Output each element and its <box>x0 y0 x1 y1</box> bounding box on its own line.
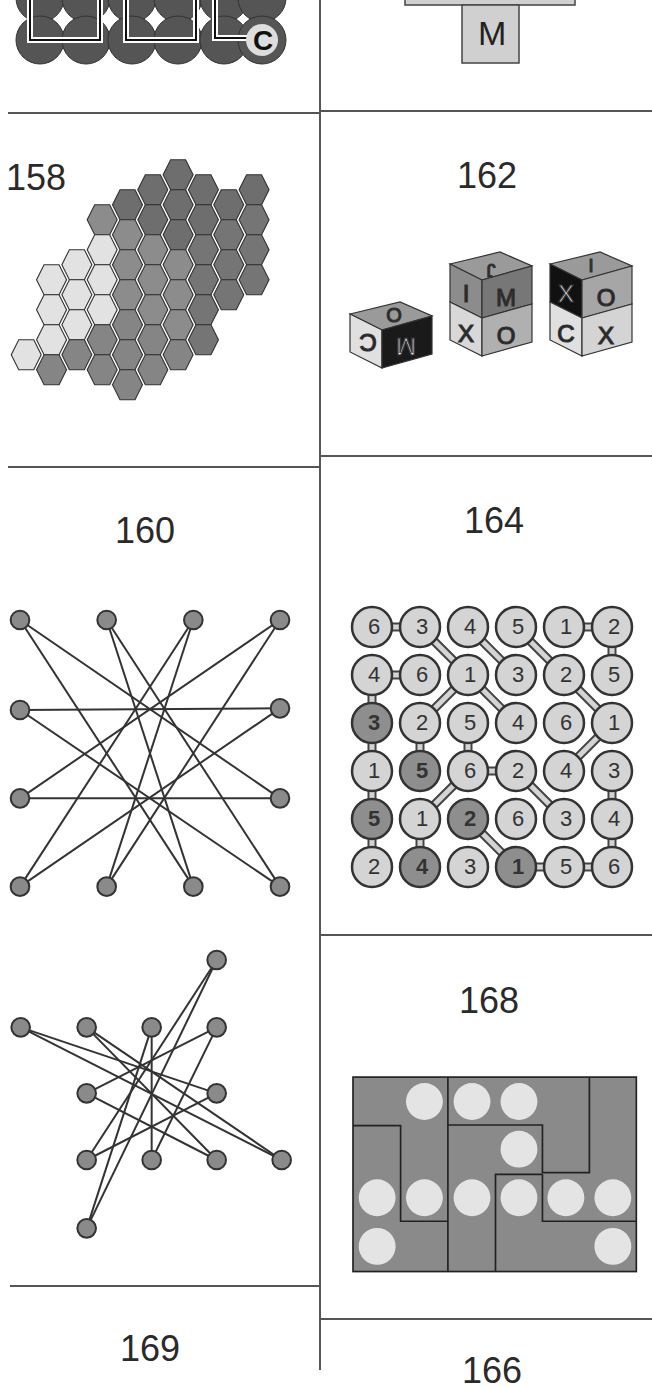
grid-cell: 1 <box>350 749 398 797</box>
grid-cell-shaded: 5 <box>350 797 398 845</box>
grid-cell: 1 <box>446 653 494 701</box>
grid-cell: 2 <box>542 653 590 701</box>
grid-cell: 6 <box>542 701 590 749</box>
grid-cell-shaded: 5 <box>398 749 446 797</box>
grid-cell: 4 <box>590 797 638 845</box>
puzzle-number-partial: 166 <box>462 1350 522 1387</box>
svg-text:O: O <box>386 304 402 326</box>
number-chain-grid: 6 3 4 5 1 2 4 6 1 3 2 5 3 2 5 4 6 1 1 5 … <box>350 605 635 890</box>
svg-text:M: M <box>396 333 416 360</box>
grid-cell: 6 <box>590 845 638 893</box>
puzzle-number-169: 169 <box>120 1328 180 1370</box>
grid-cell: 1 <box>398 797 446 845</box>
crossing-lines-graph-160 <box>0 590 320 910</box>
svg-text:C: C <box>557 320 574 347</box>
grid-cell: 1 <box>542 605 590 653</box>
svg-text:M: M <box>496 284 516 311</box>
grid-cell: 3 <box>398 605 446 653</box>
grid-cell: 2 <box>494 749 542 797</box>
grid-numbers: 6 3 4 5 1 2 4 6 1 3 2 5 3 2 5 4 6 1 1 5 … <box>350 605 635 890</box>
grid-cell: 3 <box>542 797 590 845</box>
grid-cell: 2 <box>350 845 398 893</box>
grid-cell-shaded: 2 <box>446 797 494 845</box>
grid-cell: 4 <box>350 653 398 701</box>
puzzle-number-162: 162 <box>457 155 517 197</box>
divider-graph-169 <box>10 1285 320 1287</box>
grid-cell-shaded: 1 <box>494 845 542 893</box>
letter-cubes-puzzle: O C M J I M X O I X O C X <box>326 250 652 410</box>
grid-cell: 5 <box>446 701 494 749</box>
grid-cell: 2 <box>398 701 446 749</box>
crossing-lines-graph-2 <box>0 930 320 1260</box>
divider-162-164 <box>320 455 652 457</box>
grid-cell: 6 <box>398 653 446 701</box>
svg-text:O: O <box>597 284 616 311</box>
grid-cell: 3 <box>590 749 638 797</box>
letter-c-glyph: C <box>253 25 273 57</box>
divider-top-left <box>8 112 320 114</box>
svg-text:I: I <box>463 280 470 307</box>
svg-text:O: O <box>497 322 516 349</box>
grid-cell: 3 <box>446 845 494 893</box>
grid-cell: 5 <box>494 605 542 653</box>
grid-cell: 3 <box>494 653 542 701</box>
svg-text:X: X <box>598 322 614 349</box>
svg-text:X: X <box>458 320 474 347</box>
letter-m-tile: M <box>478 14 506 53</box>
grid-cell: 2 <box>590 605 638 653</box>
hole-board-puzzle <box>353 1076 638 1276</box>
grid-cell: 5 <box>542 845 590 893</box>
divider-top-right <box>320 110 652 112</box>
grid-cell: 4 <box>446 605 494 653</box>
svg-text:J: J <box>487 260 496 280</box>
grid-cell-shaded: 4 <box>398 845 446 893</box>
grid-cell: 6 <box>350 605 398 653</box>
puzzle-number-160: 160 <box>115 510 175 552</box>
grid-cell: 4 <box>494 701 542 749</box>
grid-cell: 6 <box>446 749 494 797</box>
divider-168-next <box>320 1318 652 1320</box>
svg-text:X: X <box>558 280 574 307</box>
puzzle-number-164: 164 <box>464 500 524 542</box>
grid-cell: 6 <box>494 797 542 845</box>
divider-158-160 <box>8 466 320 468</box>
puzzle-number-168: 168 <box>459 980 519 1022</box>
svg-text:I: I <box>588 256 593 276</box>
grid-cell: 4 <box>542 749 590 797</box>
grid-cell-shaded: 3 <box>350 701 398 749</box>
hexagon-region-puzzle <box>0 140 300 440</box>
divider-164-168 <box>320 934 652 936</box>
grid-cell: 5 <box>590 653 638 701</box>
svg-text:C: C <box>359 329 376 356</box>
grid-cell: 1 <box>590 701 638 749</box>
